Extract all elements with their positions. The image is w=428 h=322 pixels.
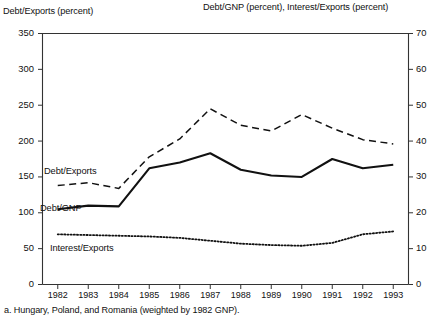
left-axis-tick-250: 250 [8, 99, 34, 110]
left-axis-tick-200: 200 [8, 135, 34, 146]
x-axis-tick-1985: 1985 [132, 290, 166, 300]
right-axis-tick-70: 70 [416, 27, 428, 38]
series-label-interest-exports: Interest/Exports [50, 243, 114, 253]
left-axis-tick-300: 300 [8, 63, 34, 74]
x-axis-tick-1987: 1987 [193, 290, 227, 300]
left-axis-tick-100: 100 [8, 206, 34, 217]
series-label-debt-gnp: Debt/GNP [40, 203, 82, 213]
series-label-debt-exports: Debt/Exports [44, 166, 97, 176]
x-axis-tick-1990: 1990 [285, 290, 319, 300]
chart-figure: Debt/Exports (percent) Debt/GNP (percent… [0, 0, 428, 322]
x-axis-tick-1984: 1984 [102, 290, 136, 300]
right-axis-tick-20: 20 [416, 206, 428, 217]
right-axis-tick-30: 30 [416, 170, 428, 181]
x-axis-tick-1991: 1991 [315, 290, 349, 300]
x-axis-tick-1983: 1983 [71, 290, 105, 300]
x-axis-tick-1988: 1988 [224, 290, 258, 300]
series-line-debt-exports [58, 109, 394, 189]
left-axis-tick-0: 0 [8, 278, 34, 289]
data-series-group [58, 109, 394, 246]
x-axis-tick-1992: 1992 [346, 290, 380, 300]
x-axis-tick-1989: 1989 [254, 290, 288, 300]
plot-area [0, 0, 428, 322]
left-axis-tick-50: 50 [8, 242, 34, 253]
series-line-debt-gnp [58, 153, 394, 209]
right-axis-tick-60: 60 [416, 63, 428, 74]
x-axis-tick-1982: 1982 [41, 290, 75, 300]
left-axis-title: Debt/Exports (percent) [3, 6, 93, 16]
x-axis-tick-1993: 1993 [376, 290, 410, 300]
right-axis-tick-50: 50 [416, 99, 428, 110]
x-axis-tick-1986: 1986 [163, 290, 197, 300]
left-axis-tick-150: 150 [8, 170, 34, 181]
right-axis-tick-10: 10 [416, 242, 428, 253]
right-axis-tick-40: 40 [416, 135, 428, 146]
left-axis-tick-350: 350 [8, 27, 34, 38]
right-axis-title: Debt/GNP (percent), Interest/Exports (pe… [203, 2, 388, 12]
right-axis-tick-0: 0 [416, 278, 428, 289]
footnote: a. Hungary, Poland, and Romania (weighte… [4, 305, 239, 315]
